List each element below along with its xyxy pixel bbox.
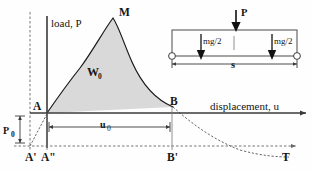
load-displacement-figure: load, P displacement, u M A B A' A" B' T… bbox=[0, 0, 313, 170]
beam-support-left bbox=[169, 53, 176, 60]
span-arrow-right bbox=[293, 62, 297, 65]
work-area-label-subscript: 0 bbox=[98, 72, 102, 81]
weight-left-arrowhead bbox=[197, 50, 205, 60]
u0-label-subscript: 0 bbox=[107, 124, 111, 133]
point-label-B: B bbox=[170, 95, 178, 107]
peak-label-M: M bbox=[119, 6, 130, 18]
u0-arrow-left bbox=[49, 125, 53, 129]
point-label-B-prime: B' bbox=[167, 151, 178, 163]
p0-label-subscript: 0 bbox=[11, 130, 15, 139]
span-arrow-left bbox=[172, 62, 176, 65]
beam-support-right bbox=[294, 53, 301, 60]
p0-label: P bbox=[3, 125, 9, 136]
weight-right-label: mg/2 bbox=[274, 36, 293, 46]
displacement-axis-arrowhead bbox=[300, 111, 306, 116]
point-label-A-double-prime: A" bbox=[41, 151, 56, 163]
elastic-unloading-dashed-line bbox=[30, 112, 48, 146]
baseline-axis-arrowhead bbox=[291, 144, 296, 148]
decay-tail-dashed-curve bbox=[173, 107, 289, 157]
applied-load-label: P bbox=[241, 7, 248, 18]
u0-label: u bbox=[100, 119, 106, 130]
p0-arrow-up bbox=[18, 116, 22, 120]
span-label: s bbox=[231, 59, 235, 70]
y-axis-label: load, P bbox=[51, 17, 82, 29]
weight-right-arrowhead bbox=[268, 50, 276, 60]
p0-arrow-down bbox=[18, 139, 22, 143]
point-label-A-prime: A' bbox=[25, 151, 37, 163]
weight-left-label: mg/2 bbox=[203, 36, 222, 46]
point-label-A: A bbox=[33, 100, 42, 112]
point-label-T: T bbox=[282, 151, 290, 163]
u0-arrow-right bbox=[166, 125, 170, 129]
x-axis-label: displacement, u bbox=[210, 100, 280, 112]
work-area-fill bbox=[47, 18, 173, 113]
figure-container: load, P displacement, u M A B A' A" B' T… bbox=[0, 0, 313, 170]
